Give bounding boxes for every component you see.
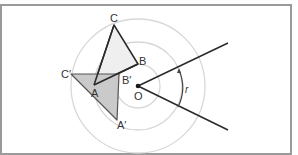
center-point-o — [136, 84, 141, 89]
diagram-frame — [1, 5, 291, 154]
label-a: A — [91, 87, 99, 99]
rotation-diagram: C B A C′ B′ A′ O r — [0, 0, 298, 155]
label-o: O — [134, 90, 143, 102]
label-b-prime: B′ — [122, 74, 131, 86]
label-b: B — [139, 55, 146, 67]
label-a-prime: A′ — [117, 119, 126, 131]
label-c-prime: C′ — [61, 68, 71, 80]
label-c: C — [110, 12, 118, 24]
